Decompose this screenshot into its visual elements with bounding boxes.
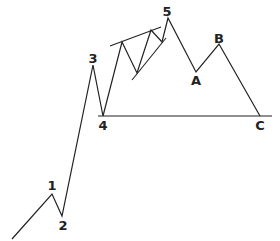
wedge-upper-trendline (110, 27, 161, 46)
label-wave-b: B (214, 31, 224, 46)
label-wave-1: 1 (47, 178, 56, 193)
label-wave-a: A (191, 73, 201, 88)
wave-path (12, 18, 260, 239)
label-wave-4: 4 (98, 118, 107, 133)
label-wave-2: 2 (58, 218, 67, 233)
elliott-wave-diagram: 1 2 3 4 5 A B C (0, 0, 280, 241)
label-wave-5: 5 (162, 4, 171, 19)
label-wave-3: 3 (88, 51, 97, 66)
label-wave-c: C (255, 118, 265, 133)
